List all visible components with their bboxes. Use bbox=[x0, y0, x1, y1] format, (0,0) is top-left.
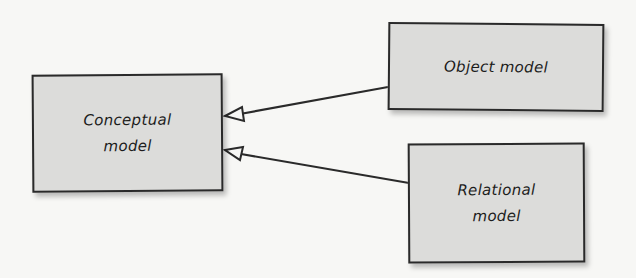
hollow-arrowhead-icon bbox=[225, 147, 243, 160]
node-label: model bbox=[84, 133, 172, 160]
node-label: Conceptual bbox=[83, 107, 171, 134]
hollow-arrowhead-icon bbox=[225, 107, 244, 121]
node-label: Relational bbox=[457, 177, 535, 203]
relational-model-box: Relational model bbox=[408, 143, 586, 264]
diagram-canvas: Conceptual model Object model Relational… bbox=[0, 0, 636, 278]
conceptual-model-box: Conceptual model bbox=[32, 73, 224, 192]
edge-object-to-conceptual bbox=[225, 87, 388, 121]
connector-line bbox=[240, 87, 388, 114]
edge-relational-to-conceptual bbox=[225, 147, 409, 183]
node-label: Object model bbox=[444, 54, 548, 81]
node-label: model bbox=[457, 203, 535, 229]
connector-line bbox=[241, 154, 409, 183]
object-model-box: Object model bbox=[388, 22, 605, 112]
